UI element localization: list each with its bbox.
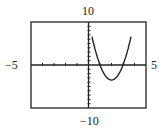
axes	[31, 22, 146, 108]
parabola-curve	[92, 37, 131, 81]
graph-window	[0, 0, 166, 133]
